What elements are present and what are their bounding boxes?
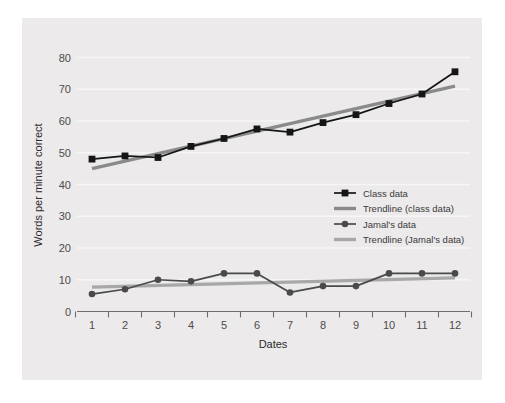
y-tick-label-60: 60 — [59, 115, 71, 127]
x-tick-label-5: 5 — [221, 319, 227, 331]
data-point-marker — [155, 154, 162, 161]
y-tick-label-80: 80 — [59, 52, 71, 64]
data-point-marker — [155, 276, 162, 283]
y-tick-label-30: 30 — [59, 210, 71, 222]
y-tick-label-50: 50 — [59, 147, 71, 159]
y-axis-title: Words per minute correct — [32, 123, 44, 246]
x-tick-label-12: 12 — [449, 319, 461, 331]
legend-label: Class data — [363, 188, 409, 199]
data-point-marker — [254, 270, 261, 277]
data-point-marker — [419, 270, 426, 277]
x-tick-label-1: 1 — [89, 319, 95, 331]
data-point-marker — [287, 289, 294, 296]
data-point-marker — [419, 91, 426, 98]
x-tick-label-7: 7 — [287, 319, 293, 331]
y-tick-label-40: 40 — [59, 179, 71, 191]
x-tick-label-6: 6 — [254, 319, 260, 331]
data-point-marker — [287, 129, 294, 136]
data-point-marker — [254, 126, 261, 133]
gridlines-group — [77, 58, 470, 280]
data-point-marker — [353, 283, 360, 290]
data-point-marker — [452, 68, 459, 75]
data-point-marker — [452, 270, 459, 277]
data-point-marker — [89, 156, 96, 163]
data-point-marker — [122, 153, 129, 160]
data-point-marker — [188, 143, 195, 150]
x-tick-label-3: 3 — [155, 319, 161, 331]
data-point-marker — [320, 119, 327, 126]
data-point-marker — [89, 291, 96, 298]
axes-group — [76, 312, 472, 318]
y-tick-label-10: 10 — [59, 274, 71, 286]
y-tick-label-0: 0 — [65, 306, 71, 318]
data-point-marker — [221, 135, 228, 142]
x-axis-ticks — [76, 312, 472, 318]
legend-entry-trendline-jamal-s-data[interactable]: Trendline (Jamal's data) — [334, 234, 464, 245]
data-point-marker — [122, 286, 129, 293]
data-series-layer — [89, 68, 459, 297]
legend-square-marker-icon — [342, 190, 349, 197]
series-jamal-s-data — [89, 270, 459, 297]
data-point-marker — [353, 111, 360, 118]
legend-label: Jamal's data — [363, 219, 417, 230]
x-tick-label-8: 8 — [320, 319, 326, 331]
legend-entry-trendline-class-data[interactable]: Trendline (class data) — [334, 203, 454, 214]
x-axis-title: Dates — [259, 338, 288, 350]
y-tick-label-70: 70 — [59, 83, 71, 95]
data-point-marker — [320, 283, 327, 290]
x-tick-label-11: 11 — [416, 319, 427, 331]
data-point-marker — [188, 278, 195, 285]
x-tick-label-10: 10 — [383, 319, 395, 331]
y-axis-tick-labels: 01020304050607080 — [59, 52, 71, 318]
x-axis-tick-labels: 123456789101112 — [89, 319, 461, 331]
chart-figure: 01020304050607080 123456789101112 Words … — [0, 0, 505, 403]
line-chart: 01020304050607080 123456789101112 Words … — [0, 0, 505, 403]
legend-label: Trendline (class data) — [363, 203, 454, 214]
legend-entry-class-data[interactable]: Class data — [334, 188, 409, 199]
x-tick-label-9: 9 — [353, 319, 359, 331]
data-point-marker — [386, 100, 393, 107]
legend-entry-jamal-s-data[interactable]: Jamal's data — [334, 219, 417, 230]
y-tick-label-20: 20 — [59, 242, 71, 254]
series-class-data — [89, 68, 459, 162]
x-tick-label-2: 2 — [122, 319, 128, 331]
data-point-marker — [221, 270, 228, 277]
data-point-marker — [386, 270, 393, 277]
legend-circle-marker-icon — [342, 221, 349, 228]
legend-label: Trendline (Jamal's data) — [363, 234, 464, 245]
x-tick-label-4: 4 — [188, 319, 194, 331]
